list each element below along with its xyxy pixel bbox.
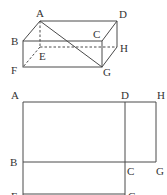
net-label-G: G: [156, 165, 164, 177]
prism-figure: A B C D E F G H: [11, 7, 128, 78]
edge-AB: [23, 21, 40, 41]
front-face: [23, 41, 102, 67]
net-label-G-bottom: G: [128, 190, 136, 195]
label-C: C: [93, 28, 100, 40]
net-label-B: B: [10, 156, 17, 168]
label-A: A: [36, 7, 44, 19]
net-label-C: C: [127, 165, 134, 177]
net-figure: A D H B C G F G: [10, 89, 165, 195]
edge-DC: [102, 21, 117, 41]
label-B: B: [11, 35, 18, 47]
label-F: F: [11, 64, 17, 76]
net-label-H: H: [157, 89, 165, 101]
net-label-F: F: [11, 190, 17, 195]
label-H: H: [120, 42, 128, 54]
net-label-A: A: [11, 89, 19, 101]
net-label-D: D: [121, 89, 129, 101]
edge-HG: [102, 47, 117, 67]
label-G: G: [103, 66, 111, 78]
diagram-canvas: A B C D E F G H A D H B C G F G: [0, 0, 167, 195]
label-D: D: [119, 8, 127, 20]
label-E: E: [39, 50, 46, 62]
edge-EF-hidden: [23, 47, 40, 67]
